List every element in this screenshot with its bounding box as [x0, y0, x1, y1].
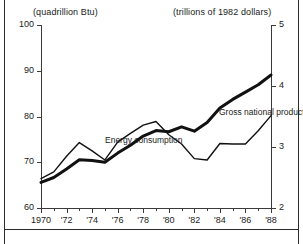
right-axis-tick — [272, 147, 276, 148]
series-line-energy-consumption — [41, 116, 271, 179]
series-annotation-energy-consumption: Energy consumption — [105, 135, 183, 145]
left-axis-tick-label: 80 — [8, 112, 34, 121]
series-annotation-gross-national-product: Gross national product — [219, 107, 303, 117]
series-lines — [41, 25, 272, 209]
left-axis-tick-label: 90 — [8, 66, 34, 75]
right-axis-tick — [272, 25, 276, 26]
right-axis-unit-caption: (trillions of 1982 dollars) — [173, 7, 271, 17]
right-axis-tick-label: 4 — [279, 81, 299, 90]
chart-figure: (quadrillion Btu) (trillions of 1982 dol… — [0, 0, 303, 244]
left-axis-tick-label: 70 — [8, 157, 34, 166]
right-axis-tick-label: 2 — [279, 203, 299, 212]
left-axis-unit-caption: (quadrillion Btu) — [33, 7, 98, 17]
x-axis-tick-label: '88 — [256, 216, 286, 225]
left-axis-tick-label: 60 — [8, 203, 34, 212]
frame-bottom-divider — [4, 229, 299, 230]
frame-left-rule — [4, 0, 5, 244]
right-axis-tick — [272, 86, 276, 87]
right-axis-tick — [272, 208, 276, 209]
series-line-gross-national-product — [41, 75, 271, 182]
plot-area: 10090807060 5432 1970'72'74'76'78'80'82'… — [41, 25, 272, 208]
right-axis-tick-label: 5 — [279, 20, 299, 29]
right-axis-tick-label: 3 — [279, 142, 299, 151]
left-axis-tick-label: 100 — [8, 20, 34, 29]
